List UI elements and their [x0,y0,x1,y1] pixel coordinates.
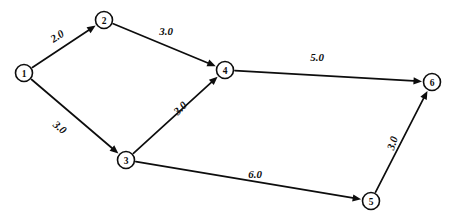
node-1[interactable]: 1 [16,65,33,82]
edges-layer [32,24,428,202]
arrow-head-icon [87,26,96,34]
edge-line [32,79,112,148]
node-3[interactable]: 3 [118,152,135,169]
edge-weight-label: 3.0 [158,25,173,37]
edge-weight-label: 2.0 [47,27,66,45]
graph-diagram: 123456 2.03.03.03.05.06.03.0 [0,0,456,221]
edge-1-to-2 [32,26,95,68]
edge-line [235,71,414,81]
edge-line [133,82,211,153]
edge-weights-layer: 2.03.03.03.05.06.03.0 [47,25,400,180]
node-4[interactable]: 4 [217,62,234,79]
edge-line [136,162,353,198]
edge-weight-label: 3.0 [170,99,189,118]
node-6[interactable]: 6 [424,74,441,91]
edge-weight-label: 3.0 [50,117,69,136]
node-label: 2 [102,16,107,26]
edge-4-to-6 [235,71,422,85]
node-label: 6 [430,78,435,88]
arrow-head-icon [352,194,361,201]
arrow-head-icon [207,60,216,67]
arrow-head-icon [413,77,422,84]
node-5[interactable]: 5 [363,193,380,210]
nodes-layer: 123456 [16,12,441,210]
edge-1-to-3 [32,79,119,153]
edge-5-to-6 [376,91,428,192]
graph-svg: 123456 2.03.03.03.05.06.03.0 [0,0,456,221]
node-label: 5 [369,197,374,207]
edge-line [376,98,424,192]
node-label: 4 [223,66,228,76]
node-2[interactable]: 2 [96,12,113,29]
edge-3-to-4 [133,77,217,154]
edge-weight-label: 6.0 [248,168,262,180]
node-label: 3 [124,156,129,166]
node-label: 1 [22,69,27,79]
edge-weight-label: 5.0 [310,51,324,63]
